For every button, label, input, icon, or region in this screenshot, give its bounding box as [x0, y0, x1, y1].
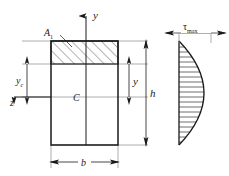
- hatched-area-a1: [51, 41, 118, 64]
- figure-svg: y z C A1 yc y h b: [0, 0, 229, 176]
- dim-yc-arrow-top: [25, 56, 29, 64]
- centroid-label: C: [73, 92, 80, 103]
- dimension-h-label: h: [150, 87, 156, 99]
- dimension-y: y: [127, 56, 138, 105]
- dimension-y-label: y: [132, 75, 138, 87]
- dimension-h: h: [144, 39, 156, 147]
- dimension-b: b: [49, 155, 120, 169]
- z-axis-label: z: [9, 97, 14, 108]
- dimension-yc-label: yc: [15, 75, 23, 88]
- dim-y-arrow-top: [127, 56, 131, 64]
- dim-y-arrow-bottom: [127, 97, 131, 105]
- hatched-area-label: A1: [43, 27, 53, 40]
- engineering-figure: y z C A1 yc y h b: [0, 0, 229, 176]
- dimension-yc: yc: [15, 56, 29, 105]
- y-axis-label: y: [92, 9, 98, 21]
- dim-yc-arrow-bottom: [25, 97, 29, 105]
- tau-subscript: max: [187, 27, 199, 34]
- dimension-tau-max: τmax: [164, 19, 227, 43]
- hatched-area-subscript: 1: [50, 33, 53, 40]
- dimension-b-label: b: [81, 157, 86, 168]
